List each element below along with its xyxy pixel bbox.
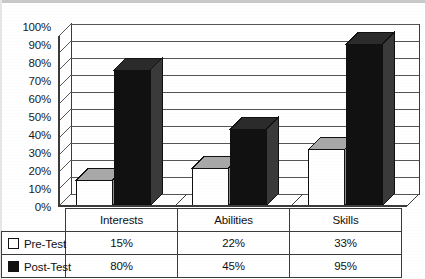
y-tick-label: 50% [0,112,51,124]
bar [114,58,162,206]
bar-chart-3d [55,4,423,211]
legend-item-pre-test: Pre-Test [2,232,66,255]
column-header-abilities: Abilities [178,209,290,232]
column-header-interests: Interests [66,209,178,232]
bar-front-face [346,45,382,207]
y-tick-label: 40% [0,130,51,142]
bar-side-face [150,58,162,206]
plot-area [55,4,423,211]
hollow-square-icon [8,238,19,249]
y-tick-label: 70% [0,76,51,88]
cell-post-test-interests: 80% [66,255,178,278]
y-tick-label: 80% [0,58,51,70]
table-row: Pre-Test 15% 22% 33% [2,232,402,255]
chart-screenshot: 100% 90% 80% 70% 60% 50% 40% 30% 20% 10%… [0,0,425,279]
table-corner-cell [2,209,66,232]
data-table-wrapper: Interests Abilities Skills Pre-Test 15% … [1,208,401,278]
cell-post-test-abilities: 45% [178,255,290,278]
data-table: Interests Abilities Skills Pre-Test 15% … [1,208,402,278]
y-tick-label: 30% [0,148,51,160]
legend-label-post-test: Post-Test [24,261,71,273]
cell-post-test-skills: 95% [290,255,402,278]
filled-square-icon [8,261,19,272]
cell-pre-test-skills: 33% [290,232,402,255]
bar [346,33,394,207]
y-axis-tick-labels: 100% 90% 80% 70% 60% 50% 40% 30% 20% 10%… [0,0,54,215]
bar [230,118,278,207]
legend-label-pre-test: Pre-Test [24,238,66,250]
cell-pre-test-abilities: 22% [178,232,290,255]
table-row: Post-Test 80% 45% 95% [2,255,402,278]
bar-side-face [266,118,278,207]
y-tick-label: 100% [0,22,51,34]
y-tick-label: 10% [0,184,51,196]
y-tick-label: 90% [0,40,51,52]
bar-side-face [382,33,394,207]
scan-edge-top [0,0,425,3]
y-tick-label: 60% [0,94,51,106]
bar-front-face [308,150,344,206]
bar-front-face [114,70,150,206]
bar-front-face [230,130,266,207]
bar-front-face [76,181,112,207]
table-header-row: Interests Abilities Skills [2,209,402,232]
cell-pre-test-interests: 15% [66,232,178,255]
legend-item-post-test: Post-Test [2,255,66,278]
column-header-skills: Skills [290,209,402,232]
bar-front-face [192,169,228,206]
y-tick-label: 20% [0,166,51,178]
